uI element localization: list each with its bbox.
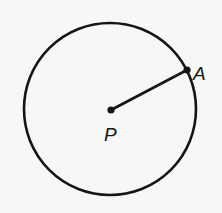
point-a-label: A: [192, 63, 206, 84]
radius-segment-pa: [111, 70, 187, 110]
circle-diagram: P A: [0, 0, 222, 213]
point-a-dot: [183, 66, 190, 73]
point-p-label: P: [104, 124, 117, 145]
point-p-dot: [107, 106, 114, 113]
